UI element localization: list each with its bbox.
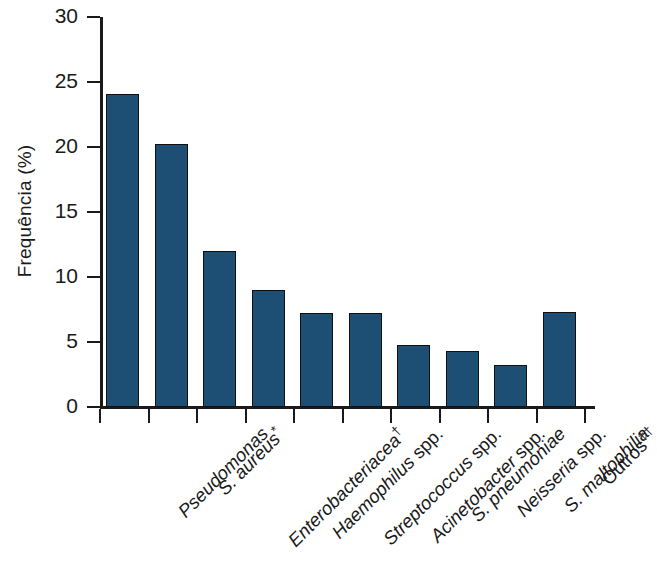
x-tick <box>487 409 489 423</box>
bar <box>203 251 236 407</box>
x-axis-label: Neisseria spp. <box>512 423 610 521</box>
x-tick <box>293 409 295 423</box>
y-tick-label: 30 <box>34 4 78 28</box>
x-axis-label: Pseudomonas <box>173 423 272 522</box>
y-tick-label: 20 <box>34 134 78 158</box>
y-tick-label: 5 <box>34 329 78 353</box>
x-axis-label: S. aureus* <box>212 423 289 500</box>
y-tick-30: 30 <box>87 16 100 18</box>
plot-area: 051015202530 <box>100 17 595 409</box>
x-axis-label: Haemophilus spp. <box>327 423 447 543</box>
x-tick <box>342 409 344 423</box>
x-tick <box>536 409 538 423</box>
y-tick-20: 20 <box>87 146 100 148</box>
bar <box>300 313 333 407</box>
x-tick <box>245 409 247 423</box>
x-axis-label: Streptococcus spp. <box>379 423 506 550</box>
y-tick-label: 25 <box>34 69 78 93</box>
y-tick-0: 0 <box>87 406 100 408</box>
bar <box>349 313 382 407</box>
x-tick <box>148 409 150 423</box>
y-tick-label: 15 <box>34 199 78 223</box>
bar <box>397 345 430 407</box>
x-tick <box>584 409 586 423</box>
y-axis-line <box>100 17 103 409</box>
bar <box>106 94 139 407</box>
x-tick <box>439 409 441 423</box>
x-axis-label: Enterobacteriacea† <box>282 423 410 551</box>
bar <box>543 312 576 407</box>
x-tick <box>196 409 198 423</box>
y-tick-10: 10 <box>87 276 100 278</box>
bar <box>155 144 188 407</box>
y-tick-label: 0 <box>34 394 78 418</box>
y-tick-15: 15 <box>87 211 100 213</box>
y-tick-label: 10 <box>34 264 78 288</box>
x-axis-label: S. pneumoniae <box>466 423 570 527</box>
y-axis-title: Frequência (%) <box>14 101 36 321</box>
bar <box>446 351 479 407</box>
x-tick <box>390 409 392 423</box>
x-tick <box>99 409 101 423</box>
x-axis-label: Acinetobacter spp. <box>426 423 550 547</box>
y-tick-5: 5 <box>87 341 100 343</box>
bar <box>494 365 527 407</box>
y-tick-25: 25 <box>87 81 100 83</box>
bar <box>252 290 285 407</box>
x-axis-label: Outros†† <box>596 423 657 490</box>
x-axis-label: S. maltophilia <box>559 423 653 517</box>
